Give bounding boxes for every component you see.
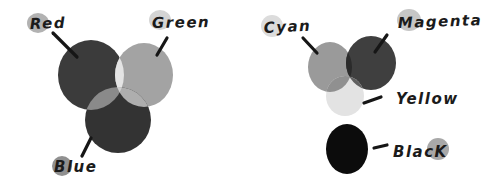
figure-canvas: Red Green Blue <box>0 0 488 183</box>
black-label: BlacK <box>393 143 448 161</box>
color-models-figure: Red Green Blue <box>0 0 488 183</box>
yellow-label: Yellow <box>396 90 459 108</box>
red-label: Red <box>30 14 67 33</box>
blue-leader-line <box>82 138 91 156</box>
blue-label: Blue <box>54 158 97 176</box>
green-label: Green <box>152 13 211 32</box>
red-leader-line <box>53 33 77 57</box>
black-circle <box>326 124 368 174</box>
magenta-label: Magenta <box>398 11 483 32</box>
cyan-leader-line <box>303 38 317 53</box>
cmyk-diagram: Cyan Magenta Yellow BlacK <box>261 9 483 174</box>
black-leader-dash <box>374 145 387 148</box>
rgb-diagram: Red Green Blue <box>27 10 210 176</box>
cyan-label: Cyan <box>263 17 311 37</box>
yellow-leader-dash <box>364 97 381 103</box>
